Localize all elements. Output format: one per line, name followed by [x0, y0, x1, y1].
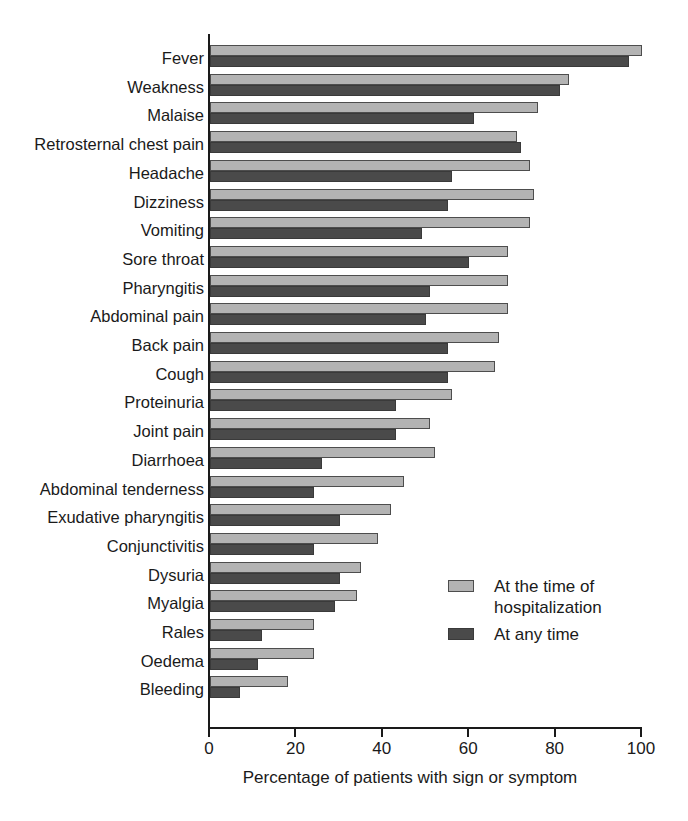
bar-any-time	[210, 171, 452, 182]
bar-hospitalization	[210, 189, 534, 200]
x-axis-title: Percentage of patients with sign or symp…	[150, 768, 670, 788]
bar-any-time	[210, 515, 340, 526]
bar-row: Sore throat	[0, 245, 688, 273]
bar-any-time	[210, 286, 430, 297]
bar-any-time	[210, 200, 448, 211]
bar-any-time	[210, 687, 240, 698]
category-label: Joint pain	[0, 419, 204, 443]
bar-any-time	[210, 400, 396, 411]
category-label: Bleeding	[0, 677, 204, 701]
legend-item-any-time: At any time	[448, 624, 678, 648]
category-label: Dysuria	[0, 563, 204, 587]
x-axis-tick-label: 80	[525, 739, 585, 759]
bar-any-time	[210, 601, 335, 612]
bar-row: Headache	[0, 159, 688, 187]
bar-any-time	[210, 343, 448, 354]
x-axis-tick	[554, 729, 556, 737]
bar-any-time	[210, 113, 474, 124]
x-axis-tick	[294, 729, 296, 737]
bar-row: Fever	[0, 44, 688, 72]
bar-any-time	[210, 458, 322, 469]
legend-swatch-dark-icon	[448, 628, 474, 640]
bar-hospitalization	[210, 389, 452, 400]
bar-hospitalization	[210, 303, 508, 314]
x-axis-tick	[640, 729, 642, 737]
category-label: Abdominal pain	[0, 304, 204, 328]
bar-any-time	[210, 314, 426, 325]
x-axis-tick-label: 0	[179, 739, 239, 759]
bar-hospitalization	[210, 74, 569, 85]
bar-any-time	[210, 85, 560, 96]
legend-swatch-light-icon	[448, 580, 474, 592]
x-axis-tick	[381, 729, 383, 737]
bar-row: Pharyngitis	[0, 274, 688, 302]
bar-hospitalization	[210, 361, 495, 372]
chart-figure: 020406080100 Percentage of patients with…	[0, 0, 688, 821]
bar-row: Back pain	[0, 331, 688, 359]
bar-hospitalization	[210, 160, 530, 171]
bar-hospitalization	[210, 504, 391, 515]
x-axis-tick-label: 100	[611, 739, 671, 759]
legend-item-hospitalization: At the time of hospitalization	[448, 576, 678, 618]
category-label: Malaise	[0, 103, 204, 127]
x-axis-tick-label: 40	[352, 739, 412, 759]
bar-row: Weakness	[0, 73, 688, 101]
category-label: Abdominal tenderness	[0, 477, 204, 501]
category-label: Headache	[0, 161, 204, 185]
bar-any-time	[210, 659, 258, 670]
category-label: Back pain	[0, 333, 204, 357]
bar-row: Exudative pharyngitis	[0, 503, 688, 531]
bar-hospitalization	[210, 533, 378, 544]
bar-row: Cough	[0, 360, 688, 388]
bar-any-time	[210, 573, 340, 584]
legend-label-any-time: At any time	[494, 624, 674, 645]
bar-hospitalization	[210, 562, 361, 573]
bar-row: Dizziness	[0, 188, 688, 216]
bar-hospitalization	[210, 45, 642, 56]
x-axis-tick-label: 20	[265, 739, 325, 759]
bar-row: Malaise	[0, 101, 688, 129]
bar-hospitalization	[210, 332, 499, 343]
category-label: Myalgia	[0, 591, 204, 615]
category-label: Weakness	[0, 75, 204, 99]
bar-hospitalization	[210, 619, 314, 630]
bar-row: Abdominal pain	[0, 302, 688, 330]
chart-legend: At the time of hospitalization At any ti…	[448, 576, 678, 654]
bar-hospitalization	[210, 246, 508, 257]
bar-hospitalization	[210, 676, 288, 687]
bar-any-time	[210, 228, 422, 239]
category-label: Sore throat	[0, 247, 204, 271]
x-axis-line	[208, 727, 642, 729]
bar-hospitalization	[210, 590, 357, 601]
category-label: Conjunctivitis	[0, 534, 204, 558]
bar-row: Bleeding	[0, 675, 688, 703]
category-label: Proteinuria	[0, 390, 204, 414]
bar-any-time	[210, 257, 469, 268]
category-label: Pharyngitis	[0, 276, 204, 300]
bar-row: Diarrhoea	[0, 446, 688, 474]
bar-row: Vomiting	[0, 216, 688, 244]
category-label: Oedema	[0, 649, 204, 673]
bar-row: Abdominal tenderness	[0, 475, 688, 503]
category-label: Rales	[0, 620, 204, 644]
bar-hospitalization	[210, 102, 538, 113]
bar-hospitalization	[210, 275, 508, 286]
category-label: Dizziness	[0, 190, 204, 214]
x-axis-tick	[208, 729, 210, 737]
bar-hospitalization	[210, 131, 517, 142]
bar-row: Joint pain	[0, 417, 688, 445]
bar-hospitalization	[210, 648, 314, 659]
category-label: Exudative pharyngitis	[0, 505, 204, 529]
legend-label-hospitalization: At the time of hospitalization	[494, 576, 674, 618]
bar-hospitalization	[210, 476, 404, 487]
bar-any-time	[210, 372, 448, 383]
category-label: Cough	[0, 362, 204, 386]
bar-row: Retrosternal chest pain	[0, 130, 688, 158]
bar-hospitalization	[210, 418, 430, 429]
bar-row: Conjunctivitis	[0, 532, 688, 560]
bar-row: Proteinuria	[0, 388, 688, 416]
x-axis-tick	[467, 729, 469, 737]
category-label: Fever	[0, 46, 204, 70]
bar-any-time	[210, 544, 314, 555]
category-label: Vomiting	[0, 218, 204, 242]
